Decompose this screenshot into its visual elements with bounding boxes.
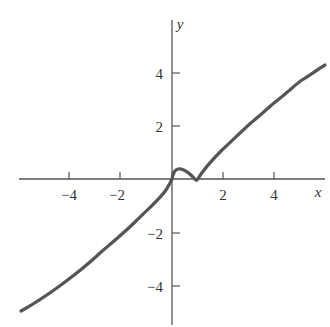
y-tick-label: −2 <box>147 226 163 242</box>
x-tick-label: 4 <box>270 187 278 203</box>
x-tick-label: −2 <box>109 187 125 203</box>
x-tick-label: −4 <box>61 187 77 203</box>
x-tick-label: 2 <box>219 187 227 203</box>
y-tick-label: 2 <box>156 119 164 135</box>
chart: −4 −2 2 4 4 2 −2 −4 x y <box>0 0 330 327</box>
y-tick-label: −4 <box>147 279 163 295</box>
x-axis-label: x <box>314 184 322 200</box>
y-axis-label: y <box>175 16 184 32</box>
y-tick-label: 4 <box>156 66 164 82</box>
